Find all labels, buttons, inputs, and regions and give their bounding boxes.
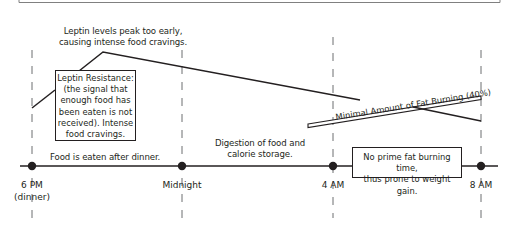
no-prime-line-1: No prime fat burning time,: [353, 152, 461, 174]
timepoint-4am-label: 4 AM: [308, 179, 358, 191]
leptin-resistance-line-1: Leptin Resistance:: [56, 73, 135, 84]
leptin-resistance-box: Leptin Resistance: (the signal that enou…: [55, 70, 136, 141]
leptin-resistance-line-3: enough food has: [56, 95, 135, 106]
fat-burning-label: Minimal Amount of Fat Burning (40%): [335, 87, 492, 122]
digestion-line-2: calorie storage.: [200, 149, 320, 160]
timepoint-midnight-label: Midnight: [147, 179, 217, 191]
time-label-6pm: 6 PM: [2, 179, 62, 191]
leptin-resistance-line-4: been eaten is not: [56, 107, 135, 118]
declining-line: [413, 107, 481, 121]
time-sublabel-dinner: (dinner): [2, 191, 62, 203]
food-eaten-label: Food is eaten after dinner.: [50, 152, 150, 163]
timepoint-midnight-dot: [178, 162, 186, 170]
no-prime-line-2: thus prone to weight gain.: [353, 174, 461, 196]
leptin-resistance-line-5: received). Intense: [56, 118, 135, 129]
timepoint-4am-dot: [329, 162, 337, 170]
leptin-resistance-line-2: (the signal that: [56, 84, 135, 95]
leptin-peak-annotation: Leptin levels peak too early, causing in…: [48, 26, 198, 48]
timepoint-6pm-label: 6 PM (dinner): [2, 179, 62, 203]
top-frame: [19, 0, 500, 3]
leptin-peak-line-2: causing intense food cravings.: [48, 37, 198, 48]
leptin-resistance-line-6: food cravings.: [56, 129, 135, 140]
digestion-line-1: Digestion of food and: [200, 138, 320, 149]
leptin-curve: [32, 90, 55, 108]
digestion-annotation: Digestion of food and calorie storage.: [200, 138, 320, 160]
leptin-peak-line-1: Leptin levels peak too early,: [48, 26, 198, 37]
no-prime-fat-burning-box: No prime fat burning time, thus prone to…: [352, 147, 462, 178]
timepoint-8am-label: 8 AM: [456, 179, 506, 191]
timepoint-6pm-dot: [28, 162, 36, 170]
timepoint-8am-dot: [477, 162, 485, 170]
